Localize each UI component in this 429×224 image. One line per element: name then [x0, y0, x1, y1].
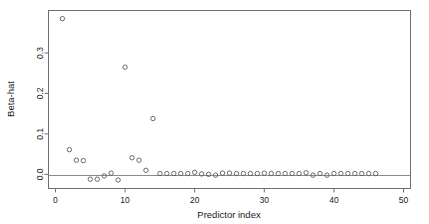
data-point [74, 158, 78, 162]
x-axis-title: Predictor index [197, 209, 261, 220]
y-tick-label: 0.3 [35, 47, 45, 59]
data-point [67, 147, 71, 151]
x-tick-label: 20 [190, 195, 200, 205]
x-tick-label: 50 [399, 195, 409, 205]
data-point [130, 156, 134, 160]
data-point [81, 158, 85, 162]
data-point [220, 171, 224, 175]
y-tick-label: 0.0 [35, 168, 45, 180]
data-point [262, 171, 266, 175]
data-point [109, 171, 113, 175]
scatter-plot-figure: 01020304050 0.00.10.20.3 Predictor index… [0, 0, 429, 224]
data-point [227, 171, 231, 175]
data-point [192, 170, 196, 174]
data-point [60, 16, 64, 20]
x-tick-label: 10 [120, 195, 130, 205]
data-point [304, 171, 308, 175]
data-points [60, 16, 378, 182]
x-tick-label: 0 [53, 195, 58, 205]
data-point [144, 168, 148, 172]
data-point [88, 177, 92, 181]
plot-canvas: 01020304050 0.00.10.20.3 Predictor index… [0, 0, 429, 224]
y-axis-ticks: 0.00.10.20.3 [35, 47, 49, 180]
data-point [95, 177, 99, 181]
data-point [137, 158, 141, 162]
x-tick-label: 30 [260, 195, 270, 205]
x-axis-ticks: 01020304050 [53, 189, 408, 205]
y-tick-label: 0.2 [35, 87, 45, 99]
plot-frame [49, 11, 411, 189]
y-tick-label: 0.1 [35, 128, 45, 140]
x-tick-label: 40 [329, 195, 339, 205]
data-point [123, 65, 127, 69]
data-point [151, 116, 155, 120]
y-axis-title: Beta-hat [5, 81, 16, 117]
data-point [116, 178, 120, 182]
